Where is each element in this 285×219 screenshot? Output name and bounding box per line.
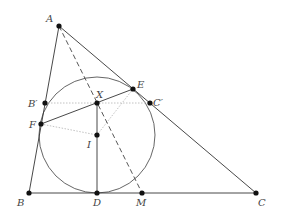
point-f xyxy=(38,121,43,126)
label-bp: B′ xyxy=(27,98,38,109)
label-i: I xyxy=(86,139,92,150)
point-cp xyxy=(147,100,152,105)
segment-c-a xyxy=(59,26,256,193)
point-bp xyxy=(42,100,47,105)
dashed-median-line xyxy=(59,26,142,193)
point-m xyxy=(139,190,144,195)
point-x xyxy=(94,100,99,105)
label-f: F xyxy=(28,119,37,130)
segment-a-b xyxy=(29,26,59,193)
dashed-segment-a-m xyxy=(59,26,142,193)
point-d xyxy=(94,190,99,195)
label-x: X xyxy=(95,89,104,100)
label-b: B xyxy=(16,197,24,208)
points xyxy=(26,23,258,195)
point-i xyxy=(94,132,99,137)
dotted-segment-f-i xyxy=(41,124,97,135)
label-c: C xyxy=(258,197,266,208)
label-cp: C′ xyxy=(153,97,164,108)
point-a xyxy=(56,23,61,28)
point-c xyxy=(253,190,258,195)
point-b xyxy=(26,190,31,195)
label-a: A xyxy=(45,13,53,24)
triangle-and-solid-lines xyxy=(29,26,256,193)
point-e xyxy=(130,86,135,91)
label-e: E xyxy=(136,79,145,90)
label-m: M xyxy=(135,197,147,208)
point-labels: ABCDMEFXIB′C′ xyxy=(16,13,266,208)
label-d: D xyxy=(92,197,101,208)
geometry-diagram: ABCDMEFXIB′C′ xyxy=(0,0,285,219)
